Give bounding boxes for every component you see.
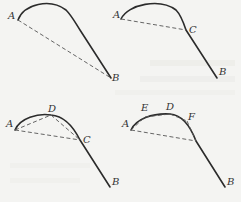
point-label-e: E — [140, 102, 149, 113]
chord-d-f — [170, 114, 187, 121]
point-label-a: A — [5, 118, 13, 129]
point-label-f: F — [187, 111, 196, 122]
point-label-b: B — [111, 176, 119, 187]
panel-1: A B — [7, 4, 119, 83]
point-label-d: D — [165, 101, 174, 112]
panel-3: A D C B — [5, 103, 119, 187]
point-label-b: B — [111, 72, 119, 83]
curve-approximation-figure: A B A C B A D C B — [0, 0, 241, 202]
chord-a-c — [15, 130, 80, 140]
point-label-c: C — [83, 134, 91, 145]
point-label-b: B — [226, 176, 234, 187]
panel-4: A E D F B — [121, 101, 234, 187]
chord-a-b — [18, 20, 111, 78]
point-label-a: A — [112, 9, 120, 20]
point-label-a: A — [7, 10, 15, 21]
curve-a-b — [131, 114, 225, 187]
point-label-a: A — [121, 118, 129, 129]
curve-a-b — [121, 4, 217, 78]
chord-a-e — [131, 117, 145, 130]
point-label-c: C — [189, 24, 197, 35]
chord-a-c — [131, 130, 196, 141]
panel-2: A C B — [112, 4, 226, 78]
chord-a-c — [121, 19, 186, 30]
point-label-b: B — [218, 66, 226, 77]
curve-a-b — [18, 4, 111, 78]
point-label-d: D — [47, 103, 56, 114]
